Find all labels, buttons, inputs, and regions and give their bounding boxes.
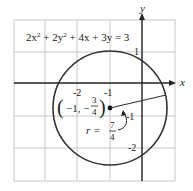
y-axis-arrow-icon <box>139 13 145 20</box>
svg-text:−1,: −1, <box>66 102 81 114</box>
equation-label: 2x2 + 2y2 + 4x + 3y = 3 <box>26 31 130 43</box>
y-tick-minus-2: -2 <box>128 142 136 153</box>
x-axis-label: x <box>179 76 185 88</box>
svg-text:−: − <box>83 102 89 114</box>
svg-text:r =: r = <box>86 124 100 136</box>
x-tick-minus-2: -2 <box>73 87 81 98</box>
svg-text:(: ( <box>57 96 64 119</box>
radius-label: r = 7 4 <box>86 120 116 142</box>
center-label: ( −1, − 3 4 ) <box>57 95 106 119</box>
svg-text:3: 3 <box>92 95 97 105</box>
svg-text:7: 7 <box>110 120 115 130</box>
radius-line <box>110 95 166 108</box>
y-tick-minus-1: -1 <box>126 111 134 122</box>
svg-text:4: 4 <box>110 132 115 142</box>
svg-text:): ) <box>99 96 106 119</box>
svg-text:4: 4 <box>92 107 97 117</box>
y-tick-1: 1 <box>134 46 139 57</box>
circle-graph: 2x2 + 2y2 + 4x + 3y = 3 x y -2 -1 1 -1 -… <box>0 0 193 191</box>
y-axis-label: y <box>139 2 145 14</box>
